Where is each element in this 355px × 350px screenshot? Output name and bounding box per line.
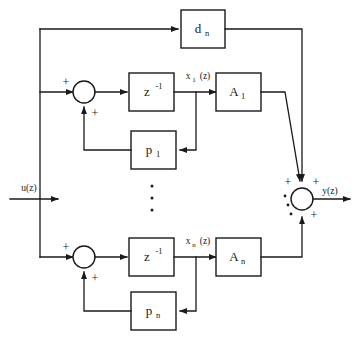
ellipsis-output-dot-3 (290, 213, 293, 216)
summing-junction-output-plus-left: + (285, 175, 292, 189)
row-n-group: + + z -1 x n (z) A n (63, 217, 302, 330)
summing-junction-rown-plus-feedback: + (92, 271, 99, 285)
block-d-n-label: d (195, 21, 202, 36)
block-d-n: d n (181, 10, 225, 48)
output-signal-label: y(z) (322, 186, 337, 197)
ellipsis-output-dot-1 (284, 195, 287, 198)
block-d-n-box (181, 10, 225, 48)
block-A-1: A 1 (216, 73, 261, 111)
summing-junction-output-circle (291, 188, 313, 210)
state-n-label-subscript: n (192, 241, 196, 249)
block-p-1: p 1 (131, 131, 176, 169)
ellipsis-output-dot-2 (287, 204, 290, 207)
block-delay-row1-label: z (144, 84, 150, 99)
state-n-signal: x n (z) (174, 236, 216, 311)
summing-junction-row1-plus-input: + (63, 75, 70, 89)
summing-junction-output-plus-bottom: + (311, 208, 318, 222)
block-A-1-subscript: 1 (241, 91, 245, 101)
vertical-ellipsis-rows (151, 185, 154, 212)
input-signal-label: u(z) (21, 183, 36, 194)
ellipsis-rows-dot-1 (151, 185, 154, 188)
block-A-1-label: A (229, 84, 239, 99)
summing-junction-rown-circle (73, 246, 95, 268)
block-p-1-subscript: 1 (156, 149, 160, 159)
state-1-label-subscript: 1 (192, 76, 196, 84)
summing-junction-row1: + + (63, 75, 99, 120)
block-p-n-box (131, 292, 176, 330)
summing-junction-row1-circle (73, 81, 95, 103)
row-1-group: + + z -1 x 1 (z) A 1 (63, 71, 300, 181)
summing-junction-output-plus-right: + (313, 175, 320, 189)
block-A-n: A n (216, 238, 261, 276)
ellipsis-rows-dot-3 (151, 209, 154, 212)
state-1-label-suffix: (z) (200, 71, 211, 82)
rown-state-tap-to-pn-wire (180, 257, 196, 311)
summing-junction-rown-plus-input: + (63, 240, 70, 254)
block-p-n: p n (131, 292, 176, 330)
state-1-label-base: x (186, 71, 191, 81)
state-n-label-base: x (186, 236, 191, 246)
block-p-1-box (131, 131, 176, 169)
block-delay-rown-label: z (144, 249, 150, 264)
summing-junction-rown: + + (63, 240, 99, 285)
state-n-label-suffix: (z) (200, 236, 211, 247)
summing-junction-row1-plus-feedback: + (92, 106, 99, 120)
block-diagram-canvas: u(z) d n + + z -1 (0, 0, 355, 350)
state-1-signal: x 1 (z) (174, 71, 216, 150)
block-delay-rown-box (129, 238, 174, 276)
block-diagram-figure: u(z) d n + + z -1 (0, 0, 355, 350)
block-A-n-label: A (229, 249, 239, 264)
A1-to-output-summer-wire (261, 92, 300, 181)
ellipsis-rows-dot-2 (151, 197, 154, 200)
row1-state-tap-to-p1-wire (180, 92, 196, 150)
block-delay-row1: z -1 (129, 73, 174, 111)
block-delay-row1-superscript: -1 (155, 81, 162, 91)
input-branch: u(z) (10, 183, 58, 199)
block-delay-row1-box (129, 73, 174, 111)
An-to-output-summer-wire (261, 217, 302, 257)
block-p-n-label: p (146, 303, 153, 318)
block-p-1-label: p (146, 142, 153, 157)
block-delay-rown: z -1 (129, 238, 174, 276)
block-delay-rown-superscript: -1 (155, 246, 162, 256)
